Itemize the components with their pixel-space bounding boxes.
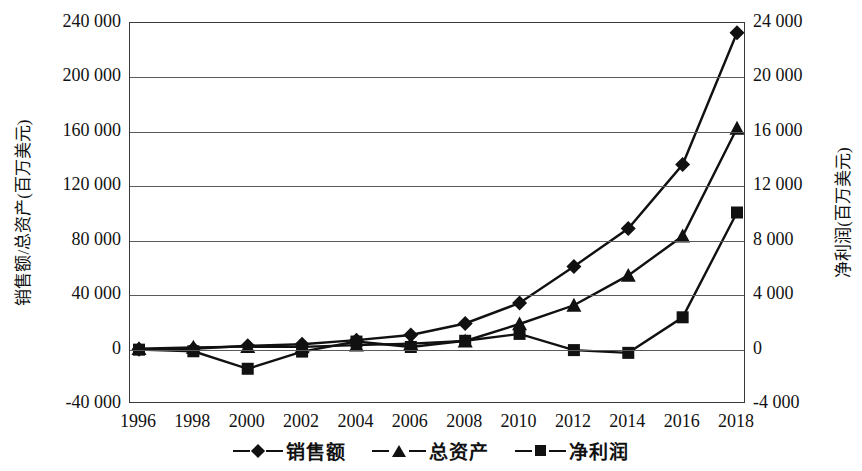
data-point-square	[514, 328, 526, 340]
x-tick-label: 1998	[162, 412, 222, 430]
legend-line-icon	[409, 450, 426, 452]
left-tick-label: -40 000	[1, 393, 121, 411]
data-point-diamond	[512, 296, 527, 311]
x-tick-label: 2012	[543, 412, 603, 430]
legend-label: 净利润	[569, 437, 629, 464]
data-point-square	[459, 335, 471, 347]
x-tick-label: 1996	[108, 412, 168, 430]
legend-label: 总资产	[429, 437, 489, 464]
data-point-square	[350, 336, 362, 348]
legend-item[interactable]: 总资产	[372, 437, 489, 464]
x-tick-label: 2000	[217, 412, 277, 430]
gridline	[130, 241, 744, 242]
left-tick-label: 80 000	[1, 230, 121, 248]
chart-legend: 销售额总资产净利润	[0, 437, 862, 464]
data-point-diamond	[730, 25, 745, 40]
legend-line-icon	[233, 450, 250, 452]
legend-square-icon	[535, 445, 546, 456]
data-point-triangle	[566, 298, 581, 312]
legend-triangle-icon	[392, 445, 406, 457]
series-line	[139, 128, 737, 348]
series-triangle	[132, 121, 745, 355]
left-tick-label: 40 000	[1, 284, 121, 302]
legend-item[interactable]: 净利润	[515, 437, 629, 464]
legend-item[interactable]: 销售额	[233, 437, 346, 464]
x-tick-label: 2004	[325, 412, 385, 430]
plot-area	[129, 22, 745, 403]
data-point-square	[187, 345, 199, 357]
data-series-layer	[130, 23, 746, 404]
data-point-triangle	[621, 268, 636, 282]
gridline	[130, 295, 744, 296]
legend-line-icon	[515, 450, 532, 452]
x-tick-label: 2018	[706, 412, 766, 430]
gridline	[130, 350, 744, 351]
x-tick-label: 2010	[489, 412, 549, 430]
right-tick-label: 12 000	[753, 175, 862, 193]
right-tick-label: 16 000	[753, 121, 862, 139]
x-tick-label: 2008	[434, 412, 494, 430]
data-point-square	[731, 207, 743, 219]
legend-diamond-icon	[251, 443, 265, 457]
right-tick-label: -4 000	[753, 393, 862, 411]
data-point-square	[677, 311, 689, 323]
right-tick-label: 0	[753, 339, 862, 357]
right-tick-label: 8 000	[753, 230, 862, 248]
legend-line-icon	[372, 450, 389, 452]
gridline	[130, 132, 744, 133]
data-point-square	[296, 346, 308, 358]
left-tick-label: 240 000	[1, 12, 121, 30]
legend-label: 销售额	[286, 437, 346, 464]
series-diamond	[132, 25, 745, 357]
series-line	[139, 213, 737, 369]
x-tick-label: 2014	[597, 412, 657, 430]
gridline	[130, 77, 744, 78]
data-point-square	[242, 363, 254, 375]
right-tick-label: 20 000	[753, 66, 862, 84]
data-point-square	[405, 341, 417, 353]
left-tick-label: 200 000	[1, 66, 121, 84]
x-tick-label: 2016	[652, 412, 712, 430]
left-tick-label: 120 000	[1, 175, 121, 193]
data-point-diamond	[566, 259, 581, 274]
chart-container: 销售额/总资产(百万美元) 净利润(百万美元) 240 000200 00016…	[0, 0, 862, 471]
right-tick-label: 4 000	[753, 284, 862, 302]
x-tick-label: 2002	[271, 412, 331, 430]
data-point-diamond	[458, 316, 473, 331]
left-tick-label: 160 000	[1, 121, 121, 139]
x-tick-label: 2006	[380, 412, 440, 430]
gridline	[130, 186, 744, 187]
left-tick-label: 0	[1, 339, 121, 357]
legend-line-icon	[266, 450, 283, 452]
series-line	[139, 33, 737, 350]
right-tick-label: 24 000	[753, 12, 862, 30]
legend-line-icon	[549, 450, 566, 452]
